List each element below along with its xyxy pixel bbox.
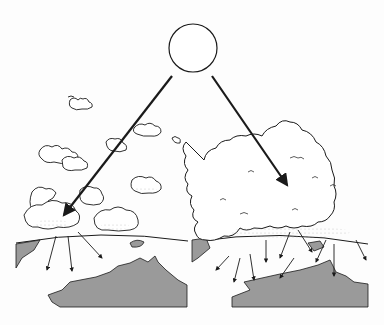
land-left-edge <box>16 240 40 268</box>
sun-icon <box>169 24 217 72</box>
sun-ray-left <box>64 76 172 215</box>
small-island <box>130 240 144 247</box>
sunlight-clouds-illustration <box>0 0 384 325</box>
land-right-edge <box>192 238 210 262</box>
land-mass-left <box>48 256 187 307</box>
right-panel <box>183 76 368 307</box>
dense-cloud <box>183 121 336 241</box>
diagram-canvas <box>0 0 384 325</box>
left-panel <box>16 76 188 307</box>
